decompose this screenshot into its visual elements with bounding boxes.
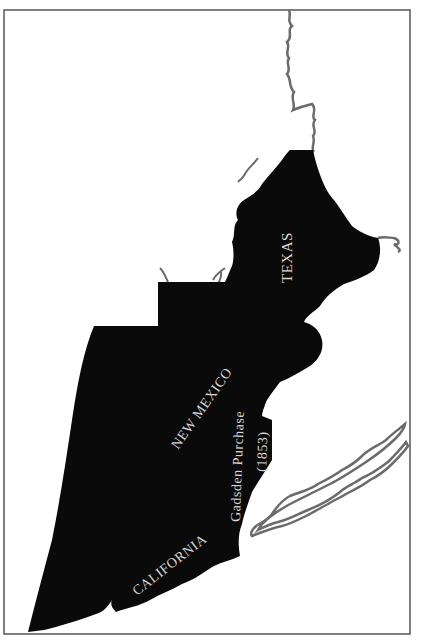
gulf-of-california (251, 424, 408, 536)
river-tributary-2 (160, 268, 168, 282)
territory-map: TEXAS NEW MEXICO Gadsden Purchase (1853)… (0, 0, 424, 640)
river-tributary-1 (238, 158, 258, 182)
river-east (378, 237, 400, 252)
river-north (287, 10, 315, 152)
river-tributary-3 (213, 268, 225, 284)
label-gadsden-year: (1853) (254, 431, 271, 472)
label-texas: TEXAS (279, 232, 295, 283)
